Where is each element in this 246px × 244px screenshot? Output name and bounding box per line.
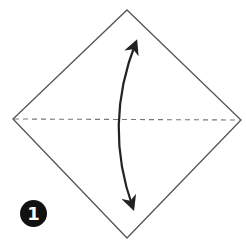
step-number-badge: 1 [20, 200, 47, 227]
fold-and-unfold-arrow-icon [119, 42, 136, 208]
paper-square [13, 10, 241, 238]
valley-fold-line [14, 119, 240, 120]
